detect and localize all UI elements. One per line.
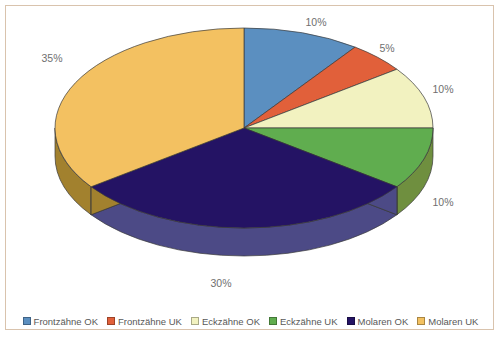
data-label-eckzaehne-ok: 10% bbox=[432, 83, 453, 95]
legend-label: Frontzähne UK bbox=[118, 316, 182, 327]
legend-swatch-molaren-uk bbox=[417, 317, 425, 325]
legend-item[interactable]: Molaren OK bbox=[347, 316, 409, 327]
data-label-molaren-uk: 35% bbox=[41, 52, 62, 64]
legend-swatch-molaren-ok bbox=[347, 317, 355, 325]
legend-swatch-eckzaehne-ok bbox=[191, 317, 199, 325]
legend-item[interactable]: Frontzähne OK bbox=[23, 316, 98, 327]
pie-geometry bbox=[55, 28, 433, 256]
legend-label: Molaren UK bbox=[428, 316, 478, 327]
data-label-molaren-ok: 30% bbox=[210, 277, 231, 289]
legend-item[interactable]: Molaren UK bbox=[417, 316, 478, 327]
legend-swatch-frontzaehne-ok bbox=[23, 317, 31, 325]
chart-page: 10% 5% 10% 10% 30% 35% Frontzähne OK Fro… bbox=[0, 0, 501, 337]
legend-label: Eckzähne UK bbox=[280, 316, 338, 327]
legend-item[interactable]: Frontzähne UK bbox=[107, 316, 182, 327]
pie-chart-3d: 10% 5% 10% 10% 30% 35% bbox=[0, 0, 501, 337]
legend-swatch-eckzaehne-uk bbox=[269, 317, 277, 325]
legend-item[interactable]: Eckzähne OK bbox=[191, 316, 260, 327]
data-label-frontzaehne-uk: 5% bbox=[379, 42, 394, 54]
data-label-eckzaehne-uk: 10% bbox=[432, 196, 453, 208]
legend-label: Eckzähne OK bbox=[202, 316, 260, 327]
legend-label: Frontzähne OK bbox=[34, 316, 98, 327]
data-label-frontzaehne-ok: 10% bbox=[305, 16, 326, 28]
legend-swatch-frontzaehne-uk bbox=[107, 317, 115, 325]
chart-legend: Frontzähne OK Frontzähne UK Eckzähne OK … bbox=[0, 312, 501, 330]
legend-item[interactable]: Eckzähne UK bbox=[269, 316, 338, 327]
legend-label: Molaren OK bbox=[358, 316, 409, 327]
